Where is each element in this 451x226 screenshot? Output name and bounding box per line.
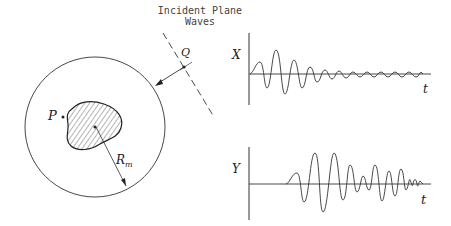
q-arrowhead [155,79,163,86]
y-axis-label: Y [232,162,240,176]
x-signal-trace [250,50,423,94]
point-q-label: Q [181,46,190,59]
radius-label-main: R [116,153,125,167]
point-p-label: P [48,108,57,123]
x-axis-label: X [232,48,241,62]
point-p-dot [62,116,65,119]
radius-label: Rm [116,153,133,169]
y-signal-trace [286,153,423,212]
incident-waves-label: Incident Plane Waves [145,5,255,27]
incident-label-line1: Incident Plane [145,5,255,16]
diagram-canvas [0,0,451,226]
radius-arrowhead [121,178,126,186]
y-time-label: t [421,192,426,207]
radius-label-subscript: m [125,160,133,169]
center-point [94,126,97,129]
x-time-label: t [423,82,428,96]
incident-label-line2: Waves [145,16,255,27]
